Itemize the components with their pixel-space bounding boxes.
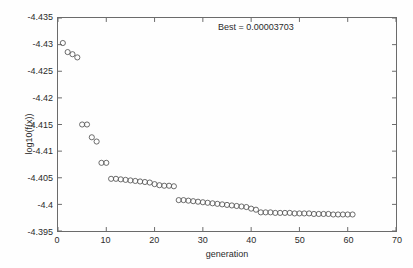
- data-point-marker: [249, 206, 254, 211]
- x-tick-label: 20: [149, 235, 159, 245]
- y-tick-label: -4.415: [27, 120, 53, 130]
- data-point-marker: [94, 139, 99, 144]
- data-point-marker: [220, 202, 225, 207]
- x-tick-label: 70: [392, 235, 402, 245]
- data-point-marker: [253, 207, 258, 212]
- data-point-marker: [191, 199, 196, 204]
- x-tick-label: 30: [198, 235, 208, 245]
- x-tick-label: 50: [295, 235, 305, 245]
- data-point-marker: [118, 177, 123, 182]
- data-point-marker: [157, 183, 162, 188]
- y-tick-label: -4.42: [32, 93, 53, 103]
- data-point-marker: [234, 203, 239, 208]
- data-point-marker: [152, 182, 157, 187]
- y-axis-tick-labels: -4.395-4.4-4.405-4.41-4.415-4.42-4.425-4…: [0, 0, 53, 268]
- data-point-marker: [195, 199, 200, 204]
- data-point-marker: [229, 203, 234, 208]
- y-tick-label: -4.41: [32, 146, 53, 156]
- data-point-marker: [210, 201, 215, 206]
- plot-area: [57, 17, 397, 232]
- data-point-marker: [171, 184, 176, 189]
- data-point-marker: [60, 40, 65, 45]
- data-point-marker: [186, 198, 191, 203]
- data-point-marker: [75, 55, 80, 60]
- data-point-marker: [215, 201, 220, 206]
- y-tick-label: -4.435: [27, 12, 53, 22]
- y-tick-label: -4.43: [32, 39, 53, 49]
- x-tick-label: 40: [246, 235, 256, 245]
- data-point-marker: [224, 202, 229, 207]
- data-point-marker: [65, 50, 70, 55]
- data-point-marker: [89, 135, 94, 140]
- data-point-marker: [142, 179, 147, 184]
- y-tick-label: -4.405: [27, 173, 53, 183]
- x-tick-label: 0: [54, 235, 59, 245]
- data-point-marker: [128, 178, 133, 183]
- y-tick-label: -4.4: [37, 200, 53, 210]
- scatter-plot-canvas: [58, 18, 396, 231]
- data-point-marker: [123, 177, 128, 182]
- y-tick-label: -4.425: [27, 66, 53, 76]
- x-tick-label: 60: [343, 235, 353, 245]
- data-point-marker: [70, 52, 75, 57]
- x-axis-tick-labels: 010203040506070: [0, 235, 413, 249]
- chart-figure: Best = 0.00003703 log10(f(x)) -4.395-4.4…: [0, 0, 413, 268]
- data-point-marker: [133, 178, 138, 183]
- data-point-marker: [239, 204, 244, 209]
- data-point-marker: [200, 200, 205, 205]
- x-axis-label: generation: [57, 249, 397, 259]
- x-tick-label: 10: [101, 235, 111, 245]
- data-point-marker: [205, 200, 210, 205]
- data-point-marker: [138, 179, 143, 184]
